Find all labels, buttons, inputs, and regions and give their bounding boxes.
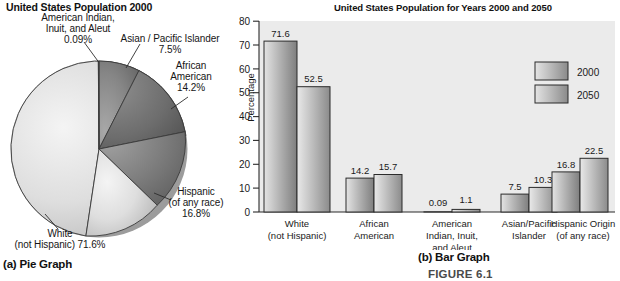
bar-value-american-indian-2000: 0.09 xyxy=(429,197,448,208)
y-axis-ticks xyxy=(253,21,259,212)
y-tick-70: 70 xyxy=(239,40,251,51)
pie-graph-caption: (a) Pie Graph xyxy=(3,258,72,271)
bar-hispanic-2000 xyxy=(552,172,580,212)
cat-hispanic-line1: Hispanic Origin xyxy=(551,218,615,229)
y-tick-10: 10 xyxy=(239,183,251,194)
bar-white-2050 xyxy=(297,87,330,212)
cat-white-line2: (not Hispanic) xyxy=(268,230,327,241)
cat-asian-line2: Islander xyxy=(512,230,546,241)
bar-graph-panel: United States Population for Years 2000 … xyxy=(232,0,620,277)
y-tick-30: 30 xyxy=(239,135,251,146)
bar-value-african-american-2050: 15.7 xyxy=(379,161,398,172)
cat-white-line1: White xyxy=(285,218,309,229)
cat-indian-line1: American xyxy=(432,218,472,229)
bar-value-asian-pacific-2000: 7.5 xyxy=(508,181,521,192)
bar-value-american-indian-2050: 1.1 xyxy=(459,194,472,205)
bar-hispanic-2050 xyxy=(580,158,608,212)
cat-asian-line1: Asian/Pacific xyxy=(502,218,557,229)
y-tick-60: 60 xyxy=(239,64,251,75)
bar-white-2000 xyxy=(264,41,297,212)
pie-label-african-american: African American 14.2% xyxy=(160,60,222,94)
bar-asian-pacific-2000 xyxy=(501,194,529,212)
y-tick-20: 20 xyxy=(239,159,251,170)
y-tick-40: 40 xyxy=(239,111,251,122)
pie-label-white: White (not Hispanic) 71.6% xyxy=(0,228,120,250)
legend-swatch-2000 xyxy=(535,62,568,80)
y-axis-tick-labels: 0 10 20 30 40 50 60 70 80 xyxy=(239,16,251,218)
cat-hispanic-line2: (of any race) xyxy=(556,230,609,241)
bar-value-hispanic-2000: 16.8 xyxy=(557,159,576,170)
cat-african-line2: American xyxy=(354,230,394,241)
bar-chart-graphic: 0 10 20 30 40 50 60 70 80 71.6 52.5 14.2… xyxy=(232,0,620,250)
y-tick-0: 0 xyxy=(244,207,250,218)
y-tick-50: 50 xyxy=(239,87,251,98)
bar-value-white-2000: 71.6 xyxy=(271,28,290,39)
bar-value-hispanic-2050: 22.5 xyxy=(585,145,604,156)
bar-graph-caption: (b) Bar Graph xyxy=(418,251,490,264)
pie-graph-panel: United States Population 2000 xyxy=(0,0,232,277)
bar-value-white-2050: 52.5 xyxy=(304,73,323,84)
cat-african-line1: African xyxy=(359,218,389,229)
y-tick-80: 80 xyxy=(239,16,251,27)
cat-indian-line3: and Aleut xyxy=(432,242,472,250)
legend-label-2000: 2000 xyxy=(577,67,600,78)
bar-value-african-american-2000: 14.2 xyxy=(351,165,370,176)
bar-american-indian-2050 xyxy=(452,209,480,212)
pie-label-hispanic: Hispanic (of any race) 16.8% xyxy=(165,186,227,220)
legend-label-2050: 2050 xyxy=(577,90,600,101)
bar-african-american-2000 xyxy=(346,178,374,212)
x-axis-category-labels: White (not Hispanic) African American Am… xyxy=(268,218,616,250)
pie-label-asian-pacific-islander: Asian / Pacific Islander 7.5% xyxy=(118,33,222,55)
cat-indian-line2: Indian, Inuit, xyxy=(426,230,478,241)
bar-value-asian-pacific-2050: 10.3 xyxy=(534,174,553,185)
legend-swatch-2050 xyxy=(535,85,568,103)
figure-number-label: FIGURE 6.1 xyxy=(428,268,493,281)
bar-african-american-2050 xyxy=(374,175,402,213)
